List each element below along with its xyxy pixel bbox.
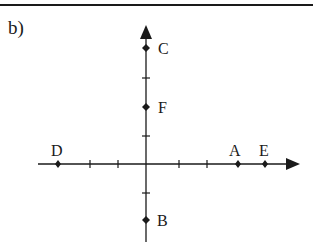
coordinate-diagram: A E D C F B xyxy=(0,0,313,250)
point-label-D: D xyxy=(51,142,63,159)
point-label-F: F xyxy=(158,99,167,116)
point-label-A: A xyxy=(229,142,241,159)
point-label-B: B xyxy=(157,212,168,229)
point-label-C: C xyxy=(158,40,169,57)
point-label-E: E xyxy=(259,142,269,159)
x-axis-arrow-icon xyxy=(286,158,300,170)
y-axis-arrow-icon xyxy=(140,25,152,39)
